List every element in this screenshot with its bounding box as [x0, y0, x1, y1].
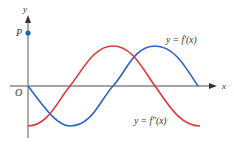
y-axis-label: y — [22, 4, 27, 14]
y-axis-arrow-icon — [25, 15, 31, 23]
curve-f-double-prime-label: y = f″(x) — [133, 116, 167, 127]
point-p-marker — [25, 30, 30, 35]
graph-canvas: y x O P y = f′(x) y = f″(x) — [0, 0, 234, 145]
x-axis-label: x — [221, 81, 226, 91]
x-axis-arrow-icon — [209, 83, 217, 89]
origin-label: O — [15, 87, 22, 98]
curve-f-prime-label: y = f′(x) — [165, 35, 197, 46]
point-p-label: P — [15, 27, 22, 38]
